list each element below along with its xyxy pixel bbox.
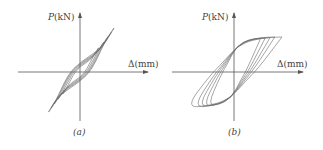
y-axis-label-a: P(kN) [48, 13, 74, 22]
panel-caption-b: (b) [228, 128, 241, 137]
hysteresis-plots [0, 0, 323, 150]
panel-caption-a: (a) [73, 128, 85, 137]
y-axis-label-b: P(kN) [202, 13, 228, 22]
figure: P(kN) Δ(mm) (a) P(kN) Δ(mm) (b) [0, 0, 323, 150]
x-axis-label-a: Δ(mm) [128, 60, 159, 69]
hysteresis-loop [49, 28, 114, 112]
x-axis-label-b: Δ(mm) [277, 60, 308, 69]
panel-a-loops [49, 28, 114, 112]
